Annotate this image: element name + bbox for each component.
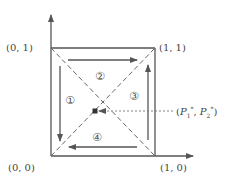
label-origin: (0, 0) xyxy=(8,163,35,173)
region-label-2: ② xyxy=(95,71,105,82)
label-top-left: (0, 1) xyxy=(6,43,33,53)
eq-p2: P xyxy=(200,106,207,117)
eq-p1-sub: 1 xyxy=(187,112,191,119)
region-label-3: ③ xyxy=(129,91,139,102)
label-top-right: (1, 1) xyxy=(159,43,186,53)
eq-close-paren: ) xyxy=(213,106,217,117)
region-label-4: ④ xyxy=(92,132,102,143)
region-label-1: ① xyxy=(65,95,75,106)
label-bottom-right: (1, 0) xyxy=(160,163,187,173)
equilibrium-label: (P1*, P2*) xyxy=(176,106,217,119)
eq-p2-sub: 2 xyxy=(207,112,211,119)
equilibrium-point xyxy=(93,109,98,114)
eq-p1: P xyxy=(180,106,187,117)
diagram-canvas xyxy=(0,0,228,180)
